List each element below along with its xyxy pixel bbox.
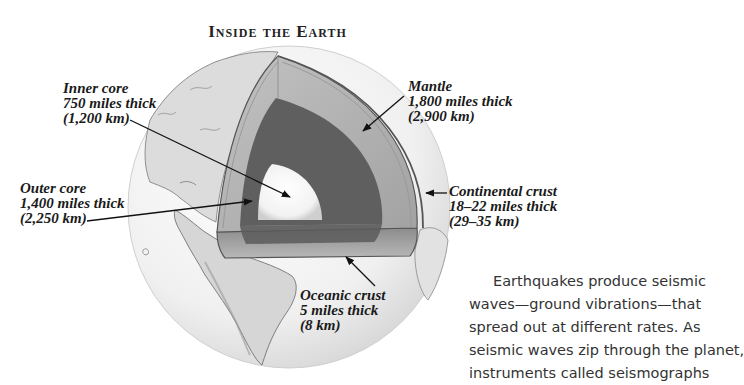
mantle-label: Mantle 1,800 miles thick (2,900 km)	[408, 79, 513, 124]
oceanic-crust-thickness-miles: 5 miles thick	[300, 303, 385, 318]
continental-crust-thickness-miles: 18–22 miles thick	[449, 199, 557, 214]
mantle-thickness-km: (2,900 km)	[408, 109, 513, 124]
outer-core-thickness-miles: 1,400 miles thick	[20, 196, 125, 211]
body-paragraph: Earthquakes produce seismic waves—ground…	[469, 270, 721, 385]
continental-crust-label: Continental crust 18–22 miles thick (29–…	[449, 184, 557, 229]
inner-core-thickness-miles: 750 miles thick	[63, 96, 156, 111]
mantle-thickness-miles: 1,800 miles thick	[408, 94, 513, 109]
paragraph-line: seismic waves zip through the planet,	[469, 339, 721, 362]
paragraph-line: instruments called seismographs	[469, 362, 721, 385]
paragraph-line: spread out at different rates. As	[469, 316, 721, 339]
continental-crust-name: Continental crust	[449, 184, 557, 199]
mantle-name: Mantle	[408, 79, 513, 94]
inner-core-name: Inner core	[63, 81, 156, 96]
oceanic-crust-label: Oceanic crust 5 miles thick (8 km)	[300, 288, 385, 333]
paragraph-line: Earthquakes produce seismic	[469, 270, 721, 293]
oceanic-crust-name: Oceanic crust	[300, 288, 385, 303]
outer-core-thickness-km: (2,250 km)	[20, 211, 125, 226]
oceanic-crust-thickness-km: (8 km)	[300, 318, 385, 333]
continental-crust-thickness-km: (29–35 km)	[449, 214, 557, 229]
paragraph-line: waves—ground vibrations—that	[469, 293, 721, 316]
outer-core-label: Outer core 1,400 miles thick (2,250 km)	[20, 181, 125, 226]
inner-core-label: Inner core 750 miles thick (1,200 km)	[63, 81, 156, 126]
inner-core-thickness-km: (1,200 km)	[63, 111, 156, 126]
outer-core-name: Outer core	[20, 181, 125, 196]
